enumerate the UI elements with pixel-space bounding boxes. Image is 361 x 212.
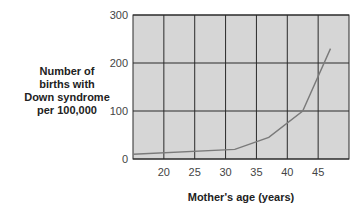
y-axis-label-line: Number of: [8, 65, 126, 78]
x-tick-label: 35: [250, 166, 262, 178]
x-axis-label: Mother's age (years): [133, 191, 349, 203]
x-tick-label: 30: [219, 166, 231, 178]
y-axis-label-line: Down syndrome: [8, 91, 126, 104]
y-axis-label: Number of births with Down syndrome per …: [8, 65, 126, 117]
x-tick-label: 20: [158, 166, 170, 178]
y-tick-label: 0: [122, 153, 128, 165]
x-tick-label: 40: [281, 166, 293, 178]
y-tick-label: 300: [110, 9, 128, 21]
y-axis-label-line: births with: [8, 78, 126, 91]
x-axis-ticks: 202530354045: [158, 166, 325, 178]
x-tick-label: 25: [189, 166, 201, 178]
plot-area: [133, 15, 349, 159]
x-tick-label: 45: [312, 166, 324, 178]
y-axis-label-line: per 100,000: [8, 104, 126, 117]
